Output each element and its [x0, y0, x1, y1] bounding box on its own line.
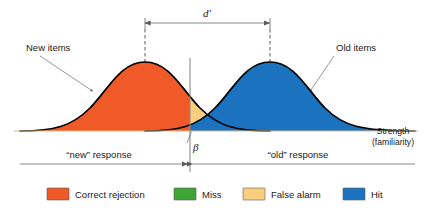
legend-swatch-correct-rejection: [47, 188, 69, 200]
old-items-label: Old items: [336, 42, 376, 53]
legend: Correct rejection Miss False alarm Hit: [47, 188, 383, 200]
old-items-leader-dot: [309, 89, 311, 91]
new-items-leader-line: [40, 56, 91, 90]
legend-label-false-alarm: False alarm: [271, 189, 321, 200]
sdt-diagram-canvas: d′: [0, 0, 433, 213]
sdt-figure: d′: [0, 0, 433, 213]
old-items-leader-line: [311, 56, 334, 90]
new-response-label: “new” response: [66, 149, 131, 160]
legend-item-correct-rejection: Correct rejection: [47, 188, 145, 200]
legend-label-miss: Miss: [202, 189, 222, 200]
legend-item-false-alarm: False alarm: [243, 188, 321, 200]
legend-swatch-hit: [343, 188, 365, 200]
axis-label-strength: Strength: [377, 126, 410, 136]
axis-label-familiarity: (familiarity): [372, 137, 414, 147]
legend-swatch-miss: [174, 188, 196, 200]
d-prime-label: d′: [203, 7, 212, 19]
legend-label-hit: Hit: [371, 189, 383, 200]
new-items-label: New items: [26, 42, 71, 53]
old-response-label: “old” response: [268, 149, 329, 160]
response-region-group: “new” response “old” response: [20, 149, 415, 164]
legend-label-correct-rejection: Correct rejection: [75, 189, 145, 200]
legend-swatch-false-alarm: [243, 188, 265, 200]
beta-label: β: [192, 141, 199, 153]
legend-item-hit: Hit: [343, 188, 383, 200]
new-items-leader-dot: [90, 89, 92, 91]
d-prime-dimension-group: d′: [145, 7, 270, 29]
beta-leader-line: [187, 132, 192, 144]
legend-item-miss: Miss: [174, 188, 222, 200]
